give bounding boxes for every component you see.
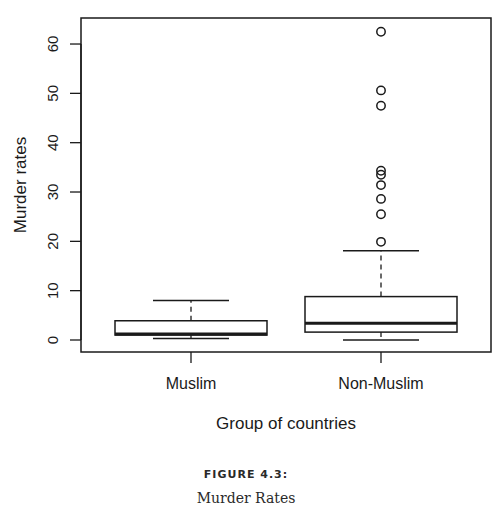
outlier-point [377,181,385,189]
box-series [115,27,457,340]
figure-title: Murder Rates [0,490,492,506]
iqr-box [305,297,457,333]
y-tick-label: 20 [44,233,61,250]
outlier-point [377,101,385,109]
y-tick-label: 60 [44,36,61,53]
y-axis-title: Murder rates [11,137,30,233]
y-axis: 0102030405060 [44,36,81,344]
figure-label: FIGURE 4.3: [0,468,492,481]
box-non-muslim [305,27,457,340]
box-muslim [115,301,267,339]
outlier-point [377,238,385,246]
y-tick-label: 40 [44,134,61,151]
boxplot-chart: 0102030405060 MuslimNon-Muslim Murder ra… [0,0,492,506]
y-tick-label: 50 [44,85,61,102]
outlier-point [377,27,385,35]
y-tick-label: 30 [44,184,61,201]
outlier-point [377,210,385,218]
x-tick-label: Muslim [166,375,217,392]
x-axis: MuslimNon-Muslim [166,352,424,392]
x-axis-title: Group of countries [216,414,356,433]
outlier-point [377,86,385,94]
y-tick-label: 0 [44,336,61,344]
x-tick-label: Non-Muslim [338,375,423,392]
y-tick-label: 10 [44,282,61,299]
outlier-point [377,195,385,203]
